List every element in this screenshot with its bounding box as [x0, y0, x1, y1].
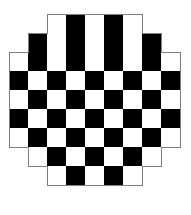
checkerboard-cell-light — [28, 109, 47, 128]
checkerboard-cell-light — [85, 90, 104, 109]
checkerboard-cell-dark — [85, 109, 104, 128]
checkerboard-cell-light — [28, 147, 47, 166]
checkerboard-cell-light — [47, 52, 66, 71]
checkerboard-cell-light — [104, 147, 123, 166]
checkerboard-cell-dark — [161, 109, 180, 128]
checkerboard-cell-light — [104, 71, 123, 90]
checkerboard-cell-light — [85, 52, 104, 71]
checkerboard-cell-dark — [142, 128, 161, 147]
checkerboard-cell-dark — [47, 147, 66, 166]
checkerboard-cell-light — [66, 71, 85, 90]
checkerboard-cell-dark — [85, 147, 104, 166]
checkerboard-cell-dark — [66, 52, 85, 71]
checkerboard-cell-dark — [104, 90, 123, 109]
checkerboard-cell-light — [47, 14, 66, 33]
checkerboard-cell-dark — [161, 71, 180, 90]
checkerboard-cell-light — [28, 71, 47, 90]
checkerboard-cell-light — [123, 90, 142, 109]
checkerboard-cell-light — [66, 109, 85, 128]
checkerboard-cell-light — [104, 109, 123, 128]
checkerboard-cell-light — [161, 52, 180, 71]
checkerboard-cell-dark — [104, 33, 123, 52]
checkerboard-cell-light — [161, 90, 180, 109]
checkerboard-cell-dark — [104, 14, 123, 33]
checkerboard-canvas — [0, 0, 191, 215]
checkerboard-cell-dark — [142, 33, 161, 52]
checkerboard-cell-light — [9, 90, 28, 109]
checkerboard-cell-dark — [123, 147, 142, 166]
checkerboard-cell-dark — [28, 128, 47, 147]
checkerboard-cell-dark — [66, 33, 85, 52]
checkerboard-cell-dark — [66, 128, 85, 147]
checkerboard-cell-dark — [47, 71, 66, 90]
checkerboard-cell-dark — [104, 166, 123, 185]
checkerboard-cell-light — [161, 128, 180, 147]
checkerboard-cell-dark — [66, 166, 85, 185]
checkerboard-cell-dark — [47, 109, 66, 128]
checkerboard-cell-light — [142, 109, 161, 128]
checkerboard-cell-dark — [28, 33, 47, 52]
checkerboard-cell-light — [47, 33, 66, 52]
checkerboard-cells — [9, 14, 180, 185]
checkerboard-cell-light — [123, 33, 142, 52]
checkerboard-cell-dark — [85, 71, 104, 90]
checkerboard-figure — [0, 0, 191, 215]
checkerboard-cell-dark — [104, 128, 123, 147]
checkerboard-cell-light — [123, 166, 142, 185]
checkerboard-cell-dark — [9, 109, 28, 128]
checkerboard-cell-dark — [28, 90, 47, 109]
checkerboard-cell-dark — [104, 52, 123, 71]
checkerboard-cell-light — [142, 71, 161, 90]
checkerboard-cell-dark — [123, 109, 142, 128]
checkerboard-cell-light — [85, 33, 104, 52]
checkerboard-cell-light — [47, 90, 66, 109]
checkerboard-cell-light — [47, 166, 66, 185]
checkerboard-cell-light — [85, 14, 104, 33]
checkerboard-cell-light — [9, 52, 28, 71]
checkerboard-cell-dark — [142, 52, 161, 71]
checkerboard-cell-dark — [123, 71, 142, 90]
checkerboard-cell-light — [66, 147, 85, 166]
checkerboard-cell-dark — [142, 90, 161, 109]
checkerboard-cell-light — [123, 52, 142, 71]
checkerboard-cell-light — [47, 128, 66, 147]
checkerboard-cell-dark — [66, 90, 85, 109]
checkerboard-cell-light — [9, 128, 28, 147]
checkerboard-cell-light — [85, 166, 104, 185]
checkerboard-cell-light — [123, 14, 142, 33]
checkerboard-cell-light — [123, 128, 142, 147]
checkerboard-cell-light — [85, 128, 104, 147]
checkerboard-cell-light — [142, 147, 161, 166]
checkerboard-cell-dark — [28, 52, 47, 71]
checkerboard-cell-dark — [9, 71, 28, 90]
checkerboard-cell-dark — [66, 14, 85, 33]
